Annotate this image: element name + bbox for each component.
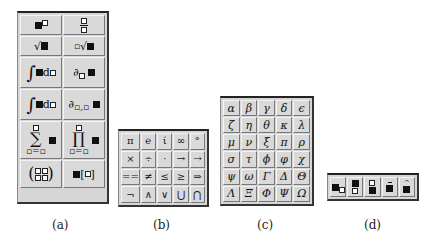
divide-symbol-button[interactable]: ÷ <box>141 151 156 168</box>
not-symbol-button[interactable]: ¬ <box>121 186 140 203</box>
greek-xi-button[interactable]: ξ <box>258 134 275 150</box>
greek-capital-omega-button[interactable]: Ω <box>293 186 310 202</box>
times-symbol-button[interactable]: × <box>121 151 140 168</box>
nth-root-template-button[interactable]: ▫√ <box>63 36 105 56</box>
equality-symbol-button[interactable]: == <box>121 169 140 186</box>
matrix-template-button[interactable]: () <box>20 160 62 188</box>
less-equal-symbol-button[interactable]: ≤ <box>157 169 172 186</box>
dot-symbol-button[interactable]: · <box>157 151 172 168</box>
fraction-template-button[interactable] <box>63 15 105 35</box>
infinity-symbol-button[interactable]: ∞ <box>173 133 188 150</box>
imaginary-i-symbol-button[interactable]: ί <box>157 133 172 150</box>
degree-symbol-button[interactable]: ° <box>190 133 205 150</box>
mixed-partial-template-button[interactable]: ∂▫,▫ <box>63 89 105 120</box>
superscript-template-button[interactable] <box>20 15 62 35</box>
pi-symbol-button[interactable]: π <box>121 133 140 150</box>
summation-template-button[interactable]: ∑▫=▫ <box>20 121 62 159</box>
and-symbol-button[interactable]: ∧ <box>141 186 156 203</box>
union-symbol-button[interactable]: ⋃ <box>173 186 188 203</box>
product-template-button[interactable]: ∏▫=▫ <box>63 121 105 159</box>
greek-capital-gamma-button[interactable]: Γ <box>258 169 275 185</box>
arrow-right-symbol-button[interactable]: → <box>173 151 188 168</box>
greek-eta-button[interactable]: η <box>241 117 258 133</box>
greek-nu-button[interactable]: ν <box>241 134 258 150</box>
greek-phi-button[interactable]: ϕ <box>258 151 275 167</box>
greek-pi-button[interactable]: π <box>276 134 293 150</box>
caption-d: (d) <box>364 218 381 232</box>
greek-beta-button[interactable]: β <box>241 100 258 116</box>
intersection-symbol-button[interactable]: ⋂ <box>190 186 205 203</box>
greek-sigma-button[interactable]: σ <box>223 151 240 167</box>
bar-accent-template-button[interactable] <box>382 177 398 197</box>
greek-capital-lambda-button[interactable]: Λ <box>223 186 240 202</box>
greek-zeta-button[interactable]: ζ <box>223 117 240 133</box>
greek-tau-button[interactable]: τ <box>241 151 258 167</box>
symbol-palette-b: π ℮ ί ∞ ° × ÷ · → ⇢ == ≠ ≤ ≥ ⇒ ¬ ∧ ∨ ⋃ ⋂ <box>118 129 209 207</box>
caption-b: (b) <box>153 218 170 232</box>
greek-psi-button[interactable]: ψ <box>223 169 240 185</box>
greek-mu-button[interactable]: μ <box>223 134 240 150</box>
greek-delta-button[interactable]: δ <box>276 100 293 116</box>
euler-e-symbol-button[interactable]: ℮ <box>141 133 156 150</box>
subscript-template-button[interactable] <box>330 177 346 197</box>
greek-epsilon-button[interactable]: ϵ <box>293 100 310 116</box>
greek-omega-button[interactable]: ω <box>241 169 258 185</box>
greek-gamma-button[interactable]: γ <box>258 100 275 116</box>
caption-c: (c) <box>257 218 273 232</box>
definite-integral-template-button[interactable]: ∫d <box>20 89 62 120</box>
script-palette-d: ^ <box>327 173 419 201</box>
implies-symbol-button[interactable]: ⇒ <box>190 169 205 186</box>
dashed-arrow-symbol-button[interactable]: ⇢ <box>190 151 205 168</box>
greek-kappa-button[interactable]: κ <box>276 117 293 133</box>
greek-rho-button[interactable]: ρ <box>293 134 310 150</box>
partial-derivative-template-button[interactable]: ∂ <box>63 57 105 88</box>
greek-theta-button[interactable]: θ <box>258 117 275 133</box>
underscript-template-button[interactable] <box>347 177 363 197</box>
greek-chi-button[interactable]: χ <box>293 151 310 167</box>
or-symbol-button[interactable]: ∨ <box>157 186 172 203</box>
greek-lambda-button[interactable]: λ <box>293 117 310 133</box>
integral-template-button[interactable]: ∫d <box>20 57 62 88</box>
greek-alpha-button[interactable]: α <box>223 100 240 116</box>
not-equal-symbol-button[interactable]: ≠ <box>141 169 156 186</box>
greek-capital-theta-button[interactable]: Θ <box>293 169 310 185</box>
greek-capital-delta-button[interactable]: Δ <box>276 169 293 185</box>
greek-capital-psi-button[interactable]: Ψ <box>276 186 293 202</box>
greek-capital-phi-button[interactable]: Φ <box>258 186 275 202</box>
subscript-index-template-button[interactable]: [] <box>63 160 105 188</box>
greek-varphi-button[interactable]: φ <box>276 151 293 167</box>
square-root-template-button[interactable]: √ <box>20 36 62 56</box>
greater-equal-symbol-button[interactable]: ≥ <box>173 169 188 186</box>
template-palette-a: √ ▫√ ∫d ∂ ∫d ∂▫,▫ ∑▫=▫ ∏▫=▫ () [] <box>17 11 109 204</box>
greek-palette-c: α β γ δ ϵ ζ η θ κ λ μ ν ξ π ρ σ τ ϕ φ χ … <box>220 96 314 206</box>
greek-capital-xi-button[interactable]: Ξ <box>241 186 258 202</box>
caption-a: (a) <box>52 218 69 232</box>
hat-accent-template-button[interactable]: ^ <box>399 177 415 197</box>
overscript-template-button[interactable] <box>364 177 380 197</box>
